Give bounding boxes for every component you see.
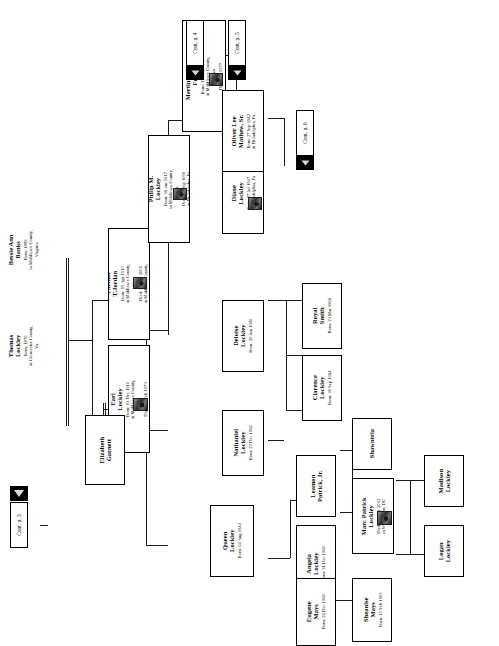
person-box-thelma-t-jordan[interactable]: Thelma T.Jordan Born: 05 Apr 1915 in Mid… [108, 228, 150, 340]
continuation-marker-p3[interactable]: Cont. p. 3 [10, 502, 28, 548]
person-born: Born: 23 Mar 1966 [328, 298, 333, 333]
person-name: Mathew, Sr. [237, 114, 244, 148]
connector-line [268, 440, 284, 441]
person-name: Clarence [311, 375, 318, 400]
continuation-label: Cont. p. 6 [302, 122, 308, 143]
person-name: Patrick, Jr. [316, 470, 323, 502]
person-name: Logan [437, 542, 444, 560]
connector-line [340, 512, 352, 513]
continuation-arrow-p5-icon[interactable] [228, 66, 246, 80]
continuation-arrow-p3-icon[interactable] [10, 486, 28, 501]
person-name: Garnett [105, 439, 112, 461]
person-bessie-ann-banks: Bessie Ann Banks Born: 1889 in Middlesex… [10, 157, 36, 342]
person-box-shawntria[interactable]: Shawntria [352, 418, 392, 470]
person-birthplace-2: Virginia [34, 242, 39, 257]
person-name: Deloise [232, 326, 239, 346]
person-name: Lockley [239, 325, 246, 347]
person-name: Lockley [318, 377, 325, 399]
connector-line [92, 300, 108, 301]
person-born: Born: 11 Sep 1964 [328, 371, 333, 405]
person-name: Madison [437, 469, 444, 494]
connector-line [340, 450, 352, 451]
person-name: Mays [368, 602, 375, 617]
connector-line [396, 554, 410, 555]
portrait-photo [248, 197, 262, 210]
connector-line [286, 300, 302, 301]
person-born: Born: 23 Dec 1962 [249, 425, 254, 460]
portrait-photo [133, 277, 147, 289]
person-born: Born: 04 Aug 1942 [238, 523, 243, 558]
connector-line [268, 558, 290, 559]
person-box-royal-smith[interactable]: Royal Smith Born: 23 Mar 1966 [302, 283, 342, 349]
portrait-photo [209, 73, 223, 86]
person-name: Lockley [312, 553, 319, 575]
person-name: Lockley [239, 432, 246, 454]
person-box-eugene-mays[interactable]: Eugene Mays Born: 24 Dec 1960 [296, 578, 336, 646]
connector-line [66, 258, 67, 426]
person-birthplace: in Philadelphia, Pa. [251, 113, 256, 149]
connector-line [146, 545, 168, 546]
person-born: Born: 15 Feb 1993 [378, 593, 383, 628]
person-died-place-2: Va. [148, 281, 150, 287]
connector-line [68, 258, 69, 426]
person-box-marc-patrick-lockley[interactable]: Marc Patrick Lockley Died: 09 Mar 2012 i… [352, 478, 394, 554]
person-box-nathaniel-lockley[interactable]: Nathaniel Lockley Born: 23 Dec 1962 [222, 410, 264, 476]
connector-line [40, 525, 48, 526]
continuation-label: Cont. p. 3 [16, 514, 22, 535]
continuation-marker-p5[interactable]: Cont. p. 5 [228, 20, 246, 66]
connector-line [268, 300, 286, 301]
person-name: Shawntria [368, 429, 375, 458]
connector-line [410, 480, 424, 481]
connector-line [286, 355, 302, 356]
family-tree-chart: Thomas Lockley Born: 1870 in Gloucester … [0, 0, 499, 646]
person-box-elizabeth-garnett[interactable]: Elizabeth Garnett [85, 415, 125, 485]
connector-line [290, 500, 291, 558]
person-box-leamon-patrick-jr[interactable]: Leamon Patrick, Jr. [296, 455, 336, 517]
portrait-photo [133, 398, 148, 411]
portrait-photo [377, 511, 392, 525]
continuation-label: Cont. p. 4 [192, 32, 198, 53]
person-name: Lockley [367, 505, 374, 527]
person-born: Born: 20 Jun 1940 [249, 319, 254, 353]
connector-line [68, 340, 92, 341]
person-box-logan-lockley[interactable]: Logan Lockley [424, 525, 464, 577]
person-name: Mays [312, 604, 319, 619]
connector-line [410, 480, 411, 554]
connector-line [168, 120, 182, 121]
person-name: Lockley [154, 178, 161, 200]
person-box-madison-lockley[interactable]: Madison Lockley [424, 455, 464, 507]
person-box-philip-m-lockley[interactable]: Philip M. Lockley Born: 16 Jan 1917 in M… [148, 135, 190, 243]
person-name: Lockley [117, 388, 124, 410]
continuation-arrow-p4-icon[interactable] [186, 66, 204, 80]
person-box-deloise-lockley[interactable]: Deloise Lockley Born: 20 Jun 1940 [222, 300, 264, 372]
person-name: T.Jordan [112, 271, 119, 297]
connector-line [286, 410, 302, 411]
continuation-marker-p4[interactable]: Cont. p. 4 [186, 20, 204, 66]
continuation-label: Cont. p. 5 [234, 32, 240, 53]
person-birthplace-2: Va. [34, 342, 39, 348]
person-name: Lockley [228, 530, 235, 552]
connector-line [284, 118, 285, 166]
person-name: Lockley [444, 470, 451, 492]
person-name: Diane [230, 185, 237, 201]
connector-line [396, 480, 410, 481]
person-name: Banks [14, 241, 21, 259]
person-name: Elizabeth [98, 437, 105, 464]
connector-line [268, 118, 284, 119]
continuation-arrow-p6-icon[interactable] [296, 156, 314, 170]
person-name: Lockley [444, 540, 451, 562]
person-born: Born: 31 Dec 1960 [322, 546, 327, 581]
person-box-queen-lockley[interactable]: Queen Lockley Born: 04 Aug 1942 [210, 505, 254, 577]
person-name: Lockley [237, 182, 244, 204]
person-box-sheanise-mays[interactable]: Sheanise Mays Born: 15 Feb 1993 [352, 578, 392, 642]
person-name: Sheanise [361, 598, 368, 623]
portrait-photo [173, 188, 187, 200]
person-box-clarence-lockley[interactable]: Clarence Lockley Born: 11 Sep 1964 [302, 355, 342, 421]
continuation-marker-p6[interactable]: Cont. p. 6 [296, 110, 314, 156]
person-name: Smith [318, 308, 325, 325]
connector-line [410, 554, 424, 555]
person-box-oliver-lee-mathew-sr[interactable]: Oliver Lee Mathew, Sr. Born: 27 Sep 1942… [222, 90, 264, 172]
person-born: Born: 24 Dec 1960 [322, 594, 327, 629]
connector-line [92, 300, 93, 420]
